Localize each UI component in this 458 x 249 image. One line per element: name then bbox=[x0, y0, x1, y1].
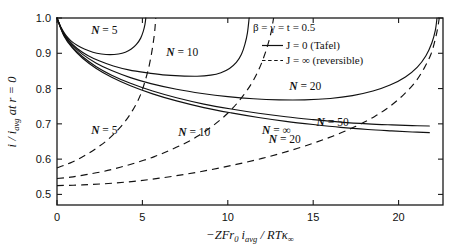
y-tick-label: 0.5 bbox=[36, 188, 51, 200]
legend-dashed-label: J = ∞ (reversible) bbox=[286, 54, 364, 67]
curve-label: N = 5 bbox=[90, 124, 118, 136]
x-tick-label: 15 bbox=[307, 211, 319, 223]
y-axis-ticks bbox=[57, 18, 443, 194]
x-tick-label: 0 bbox=[54, 211, 60, 223]
curve-label: N = 10 bbox=[177, 126, 210, 138]
curve-label: N = 20 bbox=[288, 80, 321, 92]
curve-n-5-reversible- bbox=[57, 18, 156, 168]
legend-solid-label: J = 0 (Tafel) bbox=[286, 39, 340, 52]
curve-label: N = 10 bbox=[165, 46, 198, 58]
figure-container: 05101520 0.50.60.70.80.91.0 N = 5N = 10N… bbox=[0, 0, 458, 249]
y-tick-label: 0.6 bbox=[36, 153, 51, 165]
data-curves bbox=[57, 18, 439, 186]
curve-label: N = 50 bbox=[316, 116, 349, 128]
x-tick-label: 20 bbox=[392, 211, 404, 223]
chart-svg: 05101520 0.50.60.70.80.91.0 N = 5N = 10N… bbox=[0, 0, 458, 249]
legend-params: β = γ = t = 0.5 bbox=[253, 21, 316, 33]
x-axis-ticks bbox=[57, 18, 399, 205]
x-tick-label: 5 bbox=[139, 211, 145, 223]
curve-n-10-tafel- bbox=[57, 18, 249, 76]
legend: β = γ = t = 0.5 J = 0 (Tafel) J = ∞ (rev… bbox=[253, 21, 364, 67]
x-axis-title: −ZFr0 iavg / RTκ∞ bbox=[206, 228, 293, 244]
curve-n-20-reversible- bbox=[57, 18, 439, 186]
x-axis-tick-labels: 05101520 bbox=[54, 211, 405, 223]
y-tick-label: 0.7 bbox=[36, 118, 51, 130]
y-axis-title: i / iavg at r = 0 bbox=[5, 76, 21, 148]
curve-label: N = 5 bbox=[90, 24, 118, 36]
curve-label: N = 20 bbox=[268, 133, 301, 145]
y-tick-label: 0.8 bbox=[36, 83, 51, 95]
x-tick-label: 10 bbox=[222, 211, 234, 223]
y-tick-label: 1.0 bbox=[36, 12, 51, 24]
y-tick-label: 0.9 bbox=[36, 47, 51, 59]
y-axis-tick-labels: 0.50.60.70.80.91.0 bbox=[36, 12, 51, 200]
